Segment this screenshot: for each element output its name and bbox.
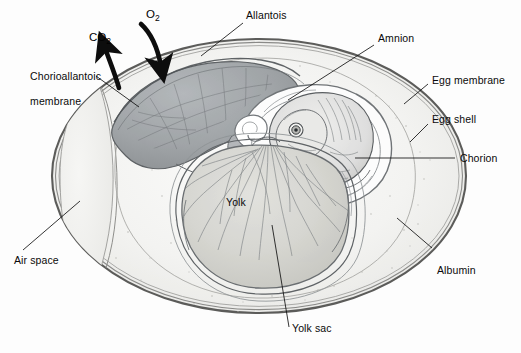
- egg-anatomy-figure: Chorioallantoic membrane Allantois Amnio…: [0, 0, 521, 353]
- label-chorioallantoic-membrane: Chorioallantoic membrane: [18, 57, 138, 120]
- label-allantois: Allantois: [246, 9, 287, 22]
- label-amnion: Amnion: [378, 32, 414, 45]
- label-oxygen: O2: [146, 8, 160, 21]
- label-yolk: Yolk: [226, 196, 246, 209]
- label-albumin: Albumin: [437, 264, 476, 277]
- yolk-mass: [182, 145, 349, 288]
- embryo-eye-pupil: [294, 128, 298, 132]
- o2-subscript: 2: [155, 13, 160, 23]
- label-yolk-sac: Yolk sac: [292, 322, 332, 335]
- label-egg-membrane: Egg membrane: [432, 74, 505, 87]
- label-chorion: Chorion: [460, 152, 497, 165]
- label-carbon-dioxide: CO2: [89, 31, 111, 44]
- egg-diagram-canvas: [0, 0, 521, 353]
- label-egg-shell: Egg shell: [432, 113, 476, 126]
- label-air-space: Air space: [14, 254, 59, 267]
- o2-text: O: [146, 8, 155, 20]
- co2-text: CO: [89, 31, 106, 43]
- co2-subscript: 2: [106, 36, 111, 46]
